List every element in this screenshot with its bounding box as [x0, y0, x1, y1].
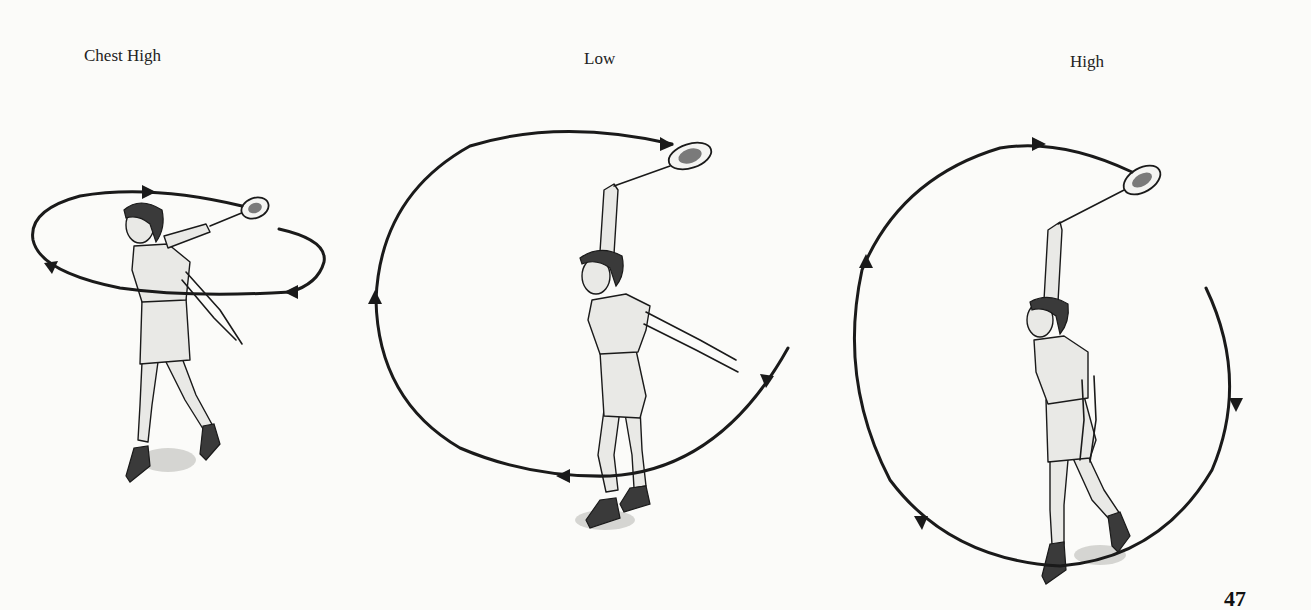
left-leg — [138, 362, 158, 442]
raised-arm — [600, 184, 618, 254]
hitting-arm — [164, 224, 210, 248]
racket-handle — [210, 212, 244, 226]
raised-arm — [1044, 222, 1062, 302]
right-leg — [165, 358, 214, 432]
left-leg — [598, 410, 620, 492]
shorts — [140, 298, 190, 364]
right-shoe — [200, 424, 220, 460]
shorts — [1046, 396, 1096, 462]
arrow-icon — [142, 185, 156, 199]
shirt — [1034, 336, 1088, 404]
racket-handle — [614, 166, 670, 186]
figure-chest-high — [33, 185, 325, 482]
arrow-icon — [1229, 398, 1243, 412]
page-number: 47 — [1224, 586, 1246, 610]
shirt — [588, 294, 650, 354]
illustrations — [0, 0, 1311, 610]
shorts — [600, 350, 646, 418]
right-leg — [624, 408, 646, 488]
back-arm — [646, 312, 736, 360]
arrow-icon — [284, 285, 298, 299]
figure-high — [854, 137, 1243, 584]
left-leg — [1050, 460, 1068, 545]
arrow-icon — [660, 137, 674, 151]
arrow-icon — [859, 254, 873, 268]
right-shoe — [620, 486, 650, 512]
right-leg — [1072, 456, 1120, 520]
arrow-icon — [368, 290, 382, 304]
swing-path — [376, 131, 788, 476]
left-shoe — [126, 446, 150, 482]
arrow-icon — [556, 469, 570, 483]
back-arm — [182, 280, 236, 340]
racket-handle — [1058, 188, 1128, 224]
left-shoe — [1042, 542, 1066, 584]
figure-low — [368, 131, 788, 530]
arrow-icon — [1032, 137, 1046, 151]
arrow-icon — [914, 516, 928, 530]
